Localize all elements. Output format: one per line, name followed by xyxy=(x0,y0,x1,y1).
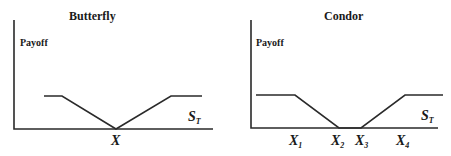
condor-title: Condor xyxy=(324,9,364,23)
condor-x-label: ST xyxy=(421,108,435,125)
condor-strike-x3: X3 xyxy=(354,133,368,150)
condor-diagram: Condor Payoff ST X1 X2 X3 X4 xyxy=(251,9,443,150)
butterfly-x-label: ST xyxy=(188,109,202,126)
butterfly-diagram: Butterfly Payoff ST X xyxy=(14,9,213,148)
condor-strike-x1: X1 xyxy=(288,133,302,150)
butterfly-title: Butterfly xyxy=(69,9,116,23)
condor-strike-x4: X4 xyxy=(395,133,409,150)
butterfly-strike-x: X xyxy=(110,133,121,148)
condor-y-label: Payoff xyxy=(256,37,284,48)
payoff-diagrams: Butterfly Payoff ST X Condor Payoff ST X… xyxy=(0,0,451,156)
butterfly-payoff-line xyxy=(44,96,202,129)
condor-strike-x2: X2 xyxy=(330,133,344,150)
condor-payoff-line xyxy=(256,95,443,128)
butterfly-y-label: Payoff xyxy=(20,37,48,48)
